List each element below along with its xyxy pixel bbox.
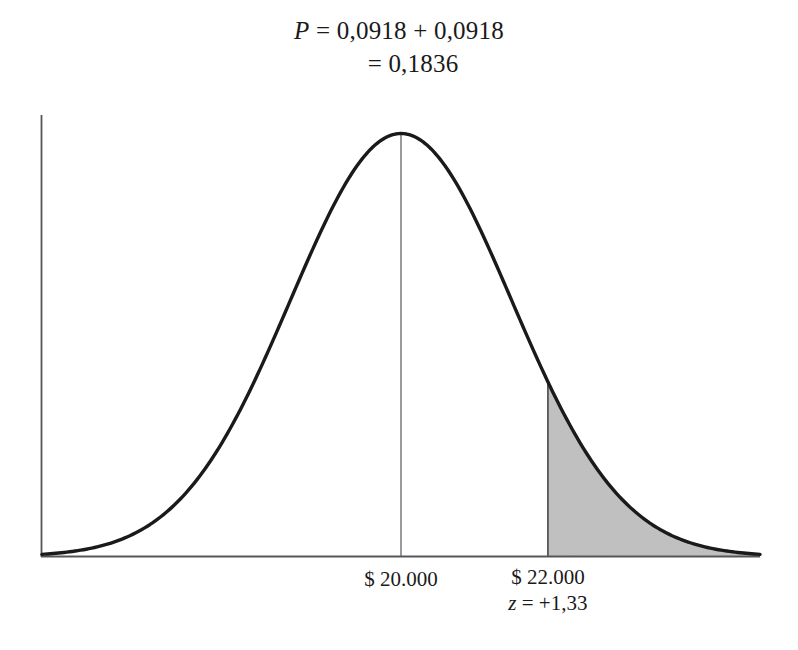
formula-line-1: P = 0,0918 + 0,0918 [0,14,798,47]
distribution-plot [0,0,798,650]
formula-line-2: = 0,1836 [0,47,798,80]
x-axis-label-cutoff-z: z = +1,33 [468,590,628,616]
formula-line-1-rest: = 0,0918 + 0,0918 [310,17,504,44]
shaded-tail-region [535,360,767,560]
normal-distribution-figure: P = 0,0918 + 0,0918 = 0,1836 [0,0,798,650]
z-value: = +1,33 [517,591,588,615]
z-symbol: z [508,591,516,615]
x-axis-label-mean: $ 20.000 [321,566,481,592]
formula-symbol-p: P [294,17,309,44]
probability-formula: P = 0,0918 + 0,0918 = 0,1836 [0,14,798,80]
x-axis-label-cutoff: $ 22.000 [468,564,628,590]
